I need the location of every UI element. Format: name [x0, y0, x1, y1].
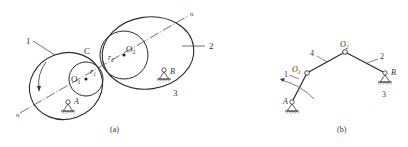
leader-b-2 — [367, 59, 378, 63]
label-b-link-4: 4 — [310, 49, 314, 58]
label-b-link-3: 3 — [382, 90, 386, 99]
joint-o2-icon — [343, 50, 348, 55]
label-pivot-a: A — [73, 97, 79, 106]
label-b-o2: O2 — [340, 40, 349, 50]
label-o2: O2 — [126, 44, 136, 55]
panel-a: 1 2 3 C O1 O2 r1 r2 A B n n (a) — [16, 10, 214, 134]
caption-b: (b) — [337, 125, 347, 134]
label-b-link-2: 2 — [380, 52, 384, 61]
pivot-b-icon — [157, 68, 171, 82]
label-point-c: C — [84, 46, 90, 56]
leader-b-4 — [317, 56, 327, 62]
center-o1-dot — [84, 77, 87, 80]
body-1-outline — [20, 42, 112, 129]
label-b-pivot-b: B — [391, 68, 396, 77]
label-b-o1: O1 — [292, 65, 301, 75]
caption-a: (a) — [110, 125, 119, 134]
label-o1: O1 — [71, 74, 81, 85]
leader-b-1 — [289, 75, 299, 79]
pivot-a-icon — [61, 100, 75, 114]
rotation-arrow-icon — [39, 62, 46, 88]
label-n-top: n — [190, 10, 194, 18]
leader-1 — [33, 41, 55, 55]
label-b-link-1: 1 — [284, 70, 288, 79]
pivot-b-b-icon — [378, 71, 392, 85]
label-b-pivot-a: A — [282, 97, 288, 106]
panel-b: 1 4 2 3 O1 O2 A B (b) — [280, 40, 396, 134]
label-link-2: 2 — [209, 41, 214, 51]
mechanism-diagram: 1 2 3 C O1 O2 r1 r2 A B n n (a) — [0, 0, 408, 147]
label-n-bottom: n — [16, 111, 20, 119]
joint-o1-icon — [305, 71, 310, 76]
label-pivot-b: B — [170, 67, 175, 76]
label-link-1: 1 — [26, 36, 31, 46]
arrowhead-icon — [37, 86, 41, 92]
label-r2: r2 — [108, 53, 114, 63]
label-link-3: 3 — [173, 88, 178, 98]
label-r1: r1 — [90, 67, 96, 77]
link-2-bar — [345, 52, 385, 73]
